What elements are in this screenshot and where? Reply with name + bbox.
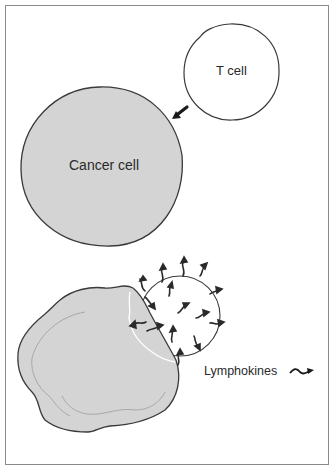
lymphokine-legend-icon [290, 368, 314, 374]
lymphokines-label: Lymphokines [204, 364, 277, 378]
cancer-cell-label: Cancer cell [69, 157, 139, 173]
movement-arrow-icon [172, 107, 187, 119]
t-cell-label: T cell [216, 63, 247, 78]
